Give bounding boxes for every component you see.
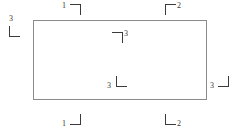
angle-marker-label-top-left-outside: 1 (62, 2, 66, 10)
marker-stroke-horizontal (116, 86, 127, 87)
angle-marker-bottom-left-outside (70, 114, 81, 125)
angle-marker-label-right-outside: 3 (210, 82, 214, 90)
angle-marker-bottom-right-outside (165, 114, 176, 125)
angle-marker-label-interior-lower: 3 (107, 82, 111, 90)
diagram-canvas: 1 2 3 3 3 3 1 2 (0, 0, 236, 135)
angle-marker-label-top-right-outside: 2 (177, 2, 181, 10)
angle-marker-top-left-outside (70, 4, 81, 15)
angle-marker-label-interior-upper: 3 (124, 30, 128, 38)
marker-stroke-horizontal (218, 86, 229, 87)
marker-stroke-horizontal (9, 36, 20, 37)
marker-stroke-vertical (80, 4, 81, 15)
marker-stroke-horizontal (165, 124, 176, 125)
angle-marker-right-outside (218, 76, 229, 87)
angle-marker-interior-upper (112, 32, 123, 43)
angle-marker-interior-lower (116, 76, 127, 87)
marker-stroke-vertical (122, 32, 123, 43)
angle-marker-label-left-outside: 3 (9, 15, 13, 23)
marker-stroke-vertical (165, 4, 166, 15)
angle-marker-label-bottom-right-outside: 2 (177, 120, 181, 128)
angle-marker-top-right-outside (165, 4, 176, 15)
angle-marker-label-bottom-left-outside: 1 (62, 120, 66, 128)
marker-stroke-horizontal (70, 124, 81, 125)
angle-marker-left-outside (9, 26, 20, 37)
marker-stroke-horizontal (165, 4, 176, 5)
